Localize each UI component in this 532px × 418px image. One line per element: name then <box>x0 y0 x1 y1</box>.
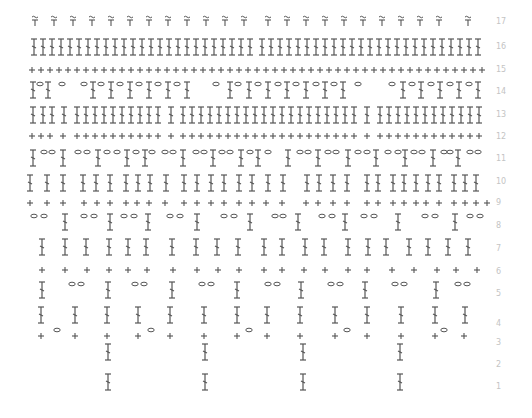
ch-stitch-icon <box>104 150 110 154</box>
dc-stitch-icon <box>101 107 107 123</box>
sc-stitch-icon <box>432 333 438 339</box>
sc-stitch-icon <box>182 67 188 73</box>
sc-stitch-icon <box>279 133 285 139</box>
sc-stitch-icon <box>208 200 214 206</box>
sc-stitch-icon <box>110 67 116 73</box>
dc-stitch-icon <box>39 239 45 255</box>
ch-stitch-icon <box>75 150 81 154</box>
dc-stitch-icon <box>58 39 64 55</box>
ch-stitch-icon <box>199 282 205 286</box>
dc-stitch-icon <box>322 82 328 98</box>
dc-stitch-icon <box>80 175 86 191</box>
sc-stitch-icon <box>272 67 278 73</box>
ch-stitch-icon <box>201 150 207 154</box>
dc-stitch-icon <box>38 307 44 323</box>
picot-stitch-icon <box>379 16 385 26</box>
ch-stitch-icon <box>167 214 173 218</box>
sc-stitch-icon <box>209 67 215 73</box>
row-11 <box>30 150 481 166</box>
sc-stitch-icon <box>416 67 422 73</box>
sc-stitch-icon <box>344 67 350 73</box>
ch-stitch-icon <box>133 150 139 154</box>
sc-stitch-icon <box>306 133 312 139</box>
dc-stitch-icon <box>184 39 190 55</box>
dc-stitch-icon <box>202 344 208 360</box>
ch-stitch-icon <box>235 82 241 86</box>
sc-stitch-icon <box>452 67 458 73</box>
dc-stitch-icon <box>302 239 308 255</box>
sc-stitch-icon <box>335 67 341 73</box>
sc-stitch-icon <box>39 267 45 273</box>
sc-stitch-icon <box>395 133 401 139</box>
dc-stitch-icon <box>247 214 253 230</box>
row-label-9: 9 <box>496 198 516 208</box>
sc-stitch-icon <box>422 133 428 139</box>
ch-stitch-icon <box>313 82 319 86</box>
sc-stitch-icon <box>342 133 348 139</box>
sc-stitch-icon <box>479 67 485 73</box>
dc-stitch-icon <box>400 82 406 98</box>
dc-stitch-icon <box>105 344 111 360</box>
ch-stitch-icon <box>174 82 180 86</box>
dc-stitch-icon <box>201 307 207 323</box>
sc-stitch-icon <box>264 333 270 339</box>
dc-stitch-icon <box>83 239 89 255</box>
picot-stitch-icon <box>70 16 76 26</box>
sc-stitch-icon <box>303 200 309 206</box>
dc-stitch-icon <box>252 107 258 123</box>
dc-stitch-icon <box>110 107 116 123</box>
dc-stitch-icon <box>107 175 113 191</box>
ch-stitch-icon <box>136 82 142 86</box>
dc-stitch-icon <box>104 307 110 323</box>
sc-stitch-icon <box>413 133 419 139</box>
ch-stitch-icon <box>467 214 473 218</box>
dc-stitch-icon <box>270 107 276 123</box>
dc-stitch-icon <box>61 107 67 123</box>
sc-stitch-icon <box>462 200 468 206</box>
sc-stitch-icon <box>164 67 170 73</box>
dc-stitch-icon <box>383 239 389 255</box>
dc-stitch-icon <box>286 39 292 55</box>
dc-stitch-icon <box>430 150 436 166</box>
ch-stitch-icon <box>447 150 453 154</box>
dc-stitch-icon <box>439 39 445 55</box>
sc-stitch-icon <box>155 67 161 73</box>
dc-stitch-icon <box>397 344 403 360</box>
sc-stitch-icon <box>234 333 240 339</box>
ch-stitch-icon <box>331 82 337 86</box>
row-label-5: 5 <box>496 289 516 299</box>
sc-stitch-icon <box>377 133 383 139</box>
sc-stitch-icon <box>326 67 332 73</box>
sc-stitch-icon <box>221 200 227 206</box>
sc-stitch-icon <box>38 67 44 73</box>
sc-stitch-icon <box>92 133 98 139</box>
dc-stitch-icon <box>295 214 301 230</box>
dc-stitch-icon <box>76 39 82 55</box>
sc-stitch-icon <box>146 133 152 139</box>
dc-stitch-icon <box>455 150 461 166</box>
picot-stitch-icon <box>360 16 366 26</box>
sc-stitch-icon <box>170 267 176 273</box>
sc-stitch-icon <box>398 67 404 73</box>
sc-stitch-icon <box>101 67 107 73</box>
row-17 <box>32 16 471 26</box>
dc-stitch-icon <box>358 39 364 55</box>
ch-stitch-icon <box>441 150 447 154</box>
sc-stitch-icon <box>345 267 351 273</box>
dc-stitch-icon <box>261 107 267 123</box>
ch-stitch-icon <box>441 328 447 332</box>
dc-stitch-icon <box>119 107 125 123</box>
ch-stitch-icon <box>132 282 138 286</box>
sc-stitch-icon <box>449 133 455 139</box>
row-10 <box>27 175 479 191</box>
dc-stitch-icon <box>130 39 136 55</box>
dc-stitch-icon <box>280 175 286 191</box>
dc-stitch-icon <box>367 39 373 55</box>
sc-stitch-icon <box>279 200 285 206</box>
dc-stitch-icon <box>403 39 409 55</box>
sc-stitch-icon <box>144 267 150 273</box>
dc-stitch-icon <box>395 107 401 123</box>
dc-stitch-icon <box>397 374 403 390</box>
sc-stitch-icon <box>83 133 89 139</box>
sc-stitch-icon <box>261 133 267 139</box>
